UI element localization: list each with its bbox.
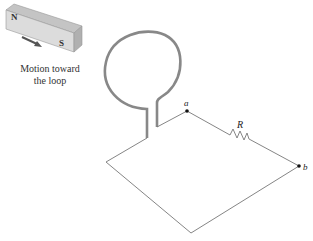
faraday-diagram: N S a b R (0, 0, 313, 241)
circuit-wires (106, 111, 299, 233)
point-a-dot (185, 109, 189, 113)
point-b-dot (297, 164, 301, 168)
resistor-label: R (236, 119, 243, 130)
south-pole-label: S (59, 38, 64, 48)
north-pole-label: N (11, 12, 18, 22)
motion-caption-line2: the loop (6, 75, 94, 87)
point-a-label: a (184, 98, 189, 108)
motion-caption: Motion toward the loop (6, 63, 94, 87)
wire-loop (105, 32, 180, 138)
motion-caption-line1: Motion toward (6, 63, 94, 75)
point-b-label: b (303, 162, 308, 172)
